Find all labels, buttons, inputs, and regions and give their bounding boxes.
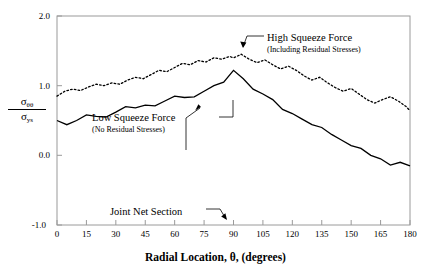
annotation-high-squeeze-title: High Squeeze Force xyxy=(267,32,352,43)
x-axis-title: Radial Location, θ, (degrees) xyxy=(0,251,431,263)
annotation-leaders xyxy=(186,36,264,219)
chart-figure: 2.0 1.0 0.0 -1.0 σθθ σys 015304560759010… xyxy=(0,0,431,276)
y-axis-title: σθθ σys xyxy=(8,96,46,122)
x-tick-label-15: 15 xyxy=(74,229,98,239)
y-axis-denominator: σys xyxy=(8,109,46,123)
y-tick-label-2: 2.0 xyxy=(24,11,50,21)
annotation-arrowheads xyxy=(195,42,246,220)
x-tick-label-120: 120 xyxy=(280,229,304,239)
x-tick-label-105: 105 xyxy=(251,229,275,239)
x-tick-label-165: 165 xyxy=(369,229,393,239)
annotation-low-squeeze-title: Low Squeeze Force xyxy=(92,112,175,123)
x-tick-label-135: 135 xyxy=(310,229,334,239)
annotation-joint-net-section: Joint Net Section xyxy=(110,206,182,217)
x-tick-label-0: 0 xyxy=(45,229,69,239)
x-tick-label-45: 45 xyxy=(133,229,157,239)
x-tick-label-30: 30 xyxy=(104,229,128,239)
x-tick-label-150: 150 xyxy=(339,229,363,239)
y-tick-label-neg1: -1.0 xyxy=(20,220,46,230)
series-group xyxy=(57,54,410,165)
x-tick-label-90: 90 xyxy=(222,229,246,239)
y-tick-label-0: 0.0 xyxy=(24,150,50,160)
series-high-squeeze-force xyxy=(57,54,410,110)
x-tick-label-75: 75 xyxy=(192,229,216,239)
x-tick-label-60: 60 xyxy=(163,229,187,239)
y-axis-numerator: σθθ xyxy=(8,96,46,109)
annotation-high-squeeze-subtitle: (Including Residual Stresses) xyxy=(267,45,361,54)
x-tick-marks xyxy=(57,220,410,225)
x-tick-label-180: 180 xyxy=(398,229,422,239)
y-tick-label-1: 1.0 xyxy=(24,81,50,91)
annotation-low-squeeze-subtitle: (No Residual Stresses) xyxy=(92,125,165,134)
